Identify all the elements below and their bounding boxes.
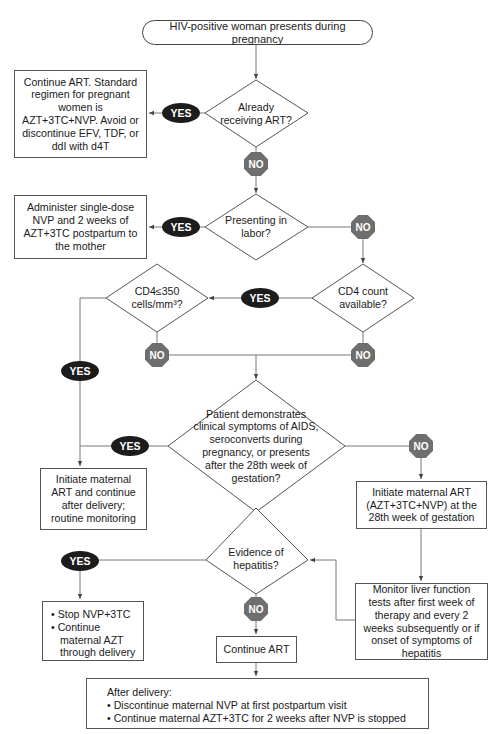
decision-already-art: Already receiving ART? [220,92,292,136]
action-labor-regimen: Administer single-dose NVP and 2 weeks o… [14,195,147,259]
no-badge: NO [409,434,433,458]
yes-badge: YES [162,217,200,237]
no-badge: NO [351,343,375,367]
action-monitor-liver: Monitor liver function tests after first… [355,583,488,660]
after-delivery-item: Continue maternal AZT+3TC for 2 weeks af… [107,712,428,725]
start-node: HIV-positive woman presents during pregn… [142,20,373,45]
action-initiate-28wk: Initiate maternal ART (AZT+3TC+NVP) at t… [356,481,487,529]
yes-badge: YES [241,288,279,308]
action-after-delivery: After delivery: Discontinue maternal NVP… [86,678,429,729]
decision-cd4-available: CD4 count available? [330,283,396,313]
decision-hepatitis: Evidence of hepatitis? [226,537,286,581]
yes-badge: YES [111,436,149,456]
after-delivery-item: Discontinue maternal NVP at first postpa… [107,699,428,712]
decision-clinical: Patient demonstrates clinical symptoms o… [193,398,319,494]
yes-badge: YES [61,361,99,381]
action-continue-art: Continue ART [216,636,297,663]
stop-nvp-item: Stop NVP+3TC [51,608,137,621]
start-label: HIV-positive woman presents during pregn… [143,20,372,46]
yes-badge: YES [162,103,200,123]
action-continue-art-standard: Continue ART. Standard regimen for pregn… [14,70,147,158]
action-initiate-continue: Initiate maternal ART and continue after… [40,468,147,530]
yes-badge: YES [61,551,99,571]
after-delivery-heading: After delivery: [107,686,428,699]
action-stop-nvp: Stop NVP+3TC Continue maternal AZT throu… [42,601,144,661]
no-badge: NO [244,152,268,176]
decision-cd4-350: CD4≤350 cells/mm³? [124,283,190,313]
no-badge: NO [351,215,375,239]
stop-nvp-item: Continue maternal AZT through delivery [51,621,137,659]
decision-in-labor: Presenting in labor? [218,212,294,242]
no-badge: NO [145,343,169,367]
